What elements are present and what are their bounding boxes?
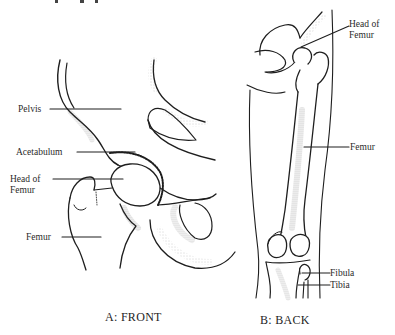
panel-a-front-drawing — [58, 60, 235, 270]
caption-panel-b: B: BACK — [260, 313, 310, 328]
label-femur-b: Femur — [350, 142, 375, 153]
label-pelvis: Pelvis — [18, 104, 41, 115]
label-tibia: Tibia — [330, 280, 350, 291]
label-head-of-femur-a: Head of Femur — [10, 174, 54, 196]
caption-panel-a: A: FRONT — [105, 310, 162, 325]
panel-b-back-drawing — [247, 10, 333, 298]
label-fibula: Fibula — [330, 268, 354, 279]
label-acetabulum: Acetabulum — [16, 147, 62, 158]
label-head-of-femur-b: Head of Femur — [349, 19, 393, 41]
label-femur-a: Femur — [26, 232, 51, 243]
